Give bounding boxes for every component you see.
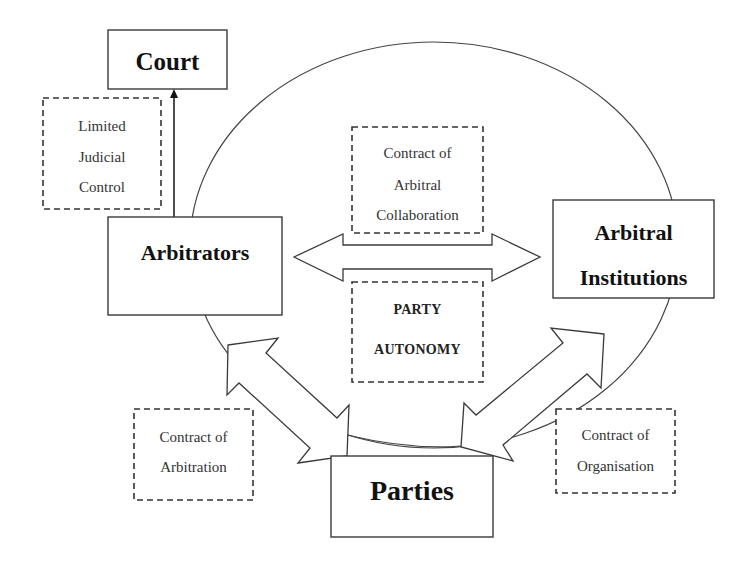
institutions-label-line2: Institutions <box>580 265 688 290</box>
contract-arbitration-line1: Contract of <box>160 429 228 445</box>
arbitral-collaboration-box: Contract of Arbitral Collaboration <box>352 127 483 233</box>
judicial-control-line1: Limited <box>78 118 126 134</box>
arbitration-relationship-diagram: Court Limited Judicial Control Arbitrato… <box>0 0 752 569</box>
institutions-label-line1: Arbitral <box>594 220 672 245</box>
court-node[interactable]: Court <box>108 30 227 89</box>
arbitrators-box <box>108 217 282 315</box>
arbitral-collaboration-line3: Collaboration <box>376 207 459 223</box>
ellipse-bottom-arc <box>347 435 461 447</box>
contract-organisation-border <box>556 409 675 493</box>
arbitral-collaboration-line1: Contract of <box>384 145 452 161</box>
contract-organisation-box: Contract of Organisation <box>556 409 675 493</box>
judicial-control-line3: Control <box>79 179 125 195</box>
contract-organisation-line2: Organisation <box>577 458 655 474</box>
parties-node[interactable]: Parties <box>331 456 493 537</box>
party-autonomy-line1: PARTY <box>393 302 441 317</box>
party-autonomy-border <box>352 282 483 382</box>
contract-arbitration-line2: Arbitration <box>160 459 227 475</box>
party-autonomy-line2: AUTONOMY <box>374 342 461 357</box>
arbitrators-node[interactable]: Arbitrators <box>108 217 282 315</box>
arrow-up-icon <box>170 89 178 98</box>
arbitrators-label: Arbitrators <box>141 240 250 265</box>
contract-arbitration-box: Contract of Arbitration <box>134 409 253 500</box>
judicial-control-box: Limited Judicial Control <box>43 98 161 209</box>
arbitral-collaboration-line2: Arbitral <box>394 177 441 193</box>
court-label: Court <box>136 48 201 75</box>
contract-organisation-line1: Contract of <box>582 427 650 443</box>
parties-label: Parties <box>370 475 454 506</box>
institutions-node[interactable]: Arbitral Institutions <box>553 200 714 298</box>
contract-arbitration-border <box>134 409 253 500</box>
judicial-control-line2: Judicial <box>79 149 126 165</box>
double-arrow-collaboration <box>294 234 540 281</box>
party-autonomy-box: PARTY AUTONOMY <box>352 282 483 382</box>
